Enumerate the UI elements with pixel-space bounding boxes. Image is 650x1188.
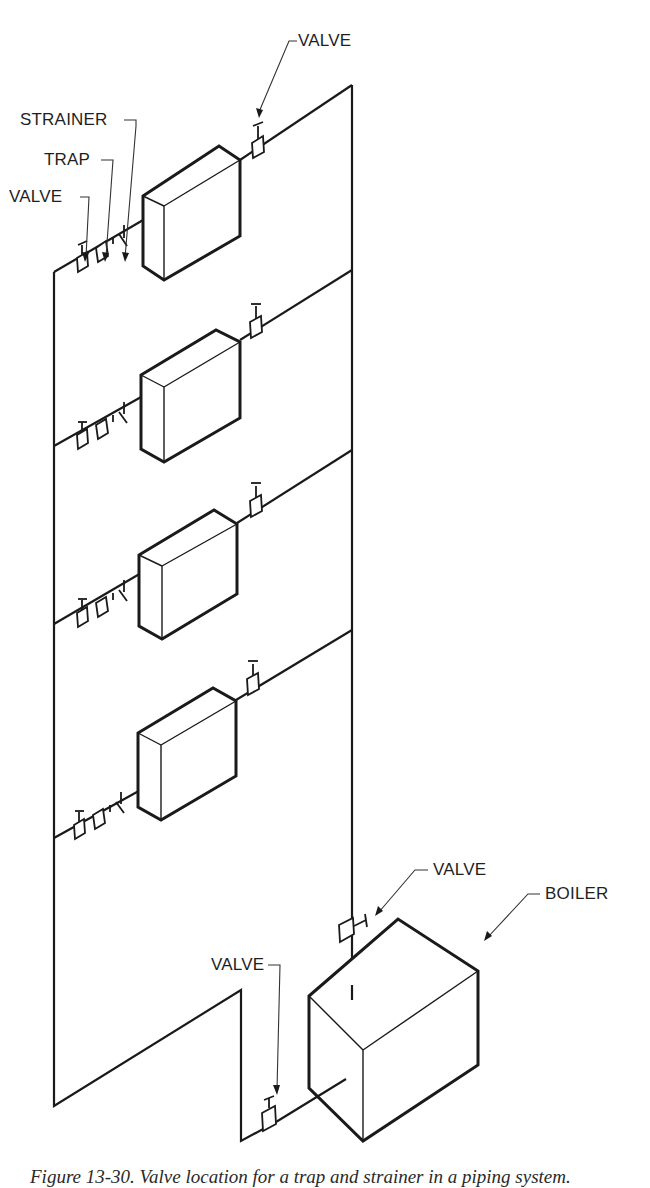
- leader-valve-top: [256, 41, 297, 118]
- radiator-2: [141, 330, 240, 462]
- radiator-2-supply-valve: [250, 304, 262, 338]
- label-valve-top-supply: VALVE: [298, 31, 351, 51]
- radiator-1-supply-valve: [252, 122, 264, 158]
- radiator-4-supply-valve: [247, 661, 259, 695]
- label-valve-return: VALVE: [9, 187, 62, 207]
- label-valve-boiler-return: VALVE: [211, 955, 264, 975]
- boiler: [309, 919, 478, 1141]
- label-boiler: BOILER: [545, 884, 609, 904]
- radiator-1-return-fittings: [77, 225, 127, 272]
- boiler-return-valve: [262, 1096, 276, 1131]
- leader-boiler: [484, 894, 540, 941]
- figure-caption: Figure 13-30. Valve location for a trap …: [30, 1166, 650, 1188]
- leader-valve-boiler-supply: [375, 870, 428, 916]
- radiator-3-return-fittings: [77, 580, 127, 627]
- label-valve-boiler-supply: VALVE: [433, 860, 486, 880]
- radiator-3: [139, 510, 237, 639]
- radiator-4-return-fittings: [74, 792, 124, 839]
- radiator-4: [138, 688, 236, 820]
- radiator-3-supply-valve: [250, 483, 262, 517]
- leader-valve-boiler-return: [268, 965, 280, 1095]
- label-strainer: STRAINER: [20, 110, 108, 130]
- label-trap: TRAP: [44, 150, 90, 170]
- radiator-1: [143, 146, 240, 280]
